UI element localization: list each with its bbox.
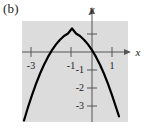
x-tick-label--1: -1 bbox=[67, 60, 75, 71]
x-tick-label--3: -3 bbox=[27, 60, 35, 71]
x-axis-label: x bbox=[135, 46, 141, 58]
y-axis-label: y bbox=[89, 3, 95, 15]
graph-plot: -3 -1 1 -1 -2 -3 x y bbox=[0, 0, 146, 131]
x-tick-label-1: 1 bbox=[110, 60, 115, 71]
y-tick-label--3: -3 bbox=[76, 100, 84, 111]
y-tick-label--2: -2 bbox=[76, 82, 84, 93]
figure-panel: (b) -3 -1 1 -1 bbox=[0, 0, 146, 131]
y-tick-label--1: -1 bbox=[76, 64, 84, 75]
